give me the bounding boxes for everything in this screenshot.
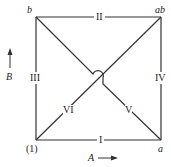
vertex-label-b: b [27,5,32,15]
a-arrow-head-icon [111,156,118,161]
edge-label-vi: VI [63,105,74,115]
vertex-label-a: a [158,144,163,154]
vertex-label-1: (1) [26,144,38,154]
b-arrow-head-icon [8,48,13,55]
axis-label-a: A [88,153,94,163]
edge-label-iii: III [30,72,40,84]
diagram-canvas [0,0,171,167]
edge-label-i: I [97,135,104,145]
axis-label-b: B [6,72,12,82]
edge-label-ii: II [94,12,105,22]
edge-label-v: V [125,105,132,115]
edge-label-iv: IV [155,72,166,84]
vertex-label-ab: ab [155,5,165,15]
